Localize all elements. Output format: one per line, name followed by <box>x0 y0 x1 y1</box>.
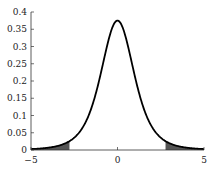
y-tick-label: 0.3 <box>13 42 28 52</box>
y-tick-label: 0.2 <box>13 76 27 86</box>
x-tick-label: 5 <box>201 155 207 165</box>
y-tick-label: 0.35 <box>7 24 27 34</box>
y-tick-label: 0.25 <box>7 59 27 69</box>
y-tick-label: 0 <box>21 145 27 155</box>
y-tick-label: 0.15 <box>7 93 27 103</box>
density-curve <box>31 21 204 149</box>
x-tick-label: 0 <box>115 155 121 165</box>
y-tick-label: 0.4 <box>13 7 28 17</box>
y-tick-labels: 00.050.10.150.20.250.30.350.4 <box>7 7 34 155</box>
x-tick-label: −5 <box>24 155 38 165</box>
y-tick-label: 0.05 <box>7 128 27 138</box>
t-distribution-chart: 00.050.10.150.20.250.30.350.4 −505 <box>0 0 214 172</box>
y-tick-label: 0.1 <box>13 111 27 121</box>
